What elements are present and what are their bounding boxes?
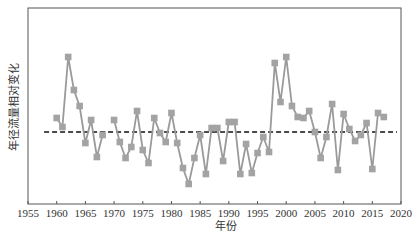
data-point-marker: [237, 171, 244, 178]
x-tick-label: 2005: [304, 207, 327, 219]
data-point-marker: [335, 167, 342, 174]
data-point-marker: [203, 171, 210, 178]
data-point-marker: [185, 181, 192, 188]
data-point-marker: [94, 154, 101, 161]
x-tick-label: 2010: [333, 207, 356, 219]
data-point-marker: [363, 120, 370, 127]
x-tick-label: 1960: [46, 207, 69, 219]
data-point-marker: [151, 115, 158, 122]
x-tick-label: 1990: [218, 207, 241, 219]
data-point-marker: [300, 115, 307, 122]
data-point-marker: [82, 140, 89, 147]
data-point-marker: [277, 99, 284, 106]
x-tick-label: 2020: [390, 207, 413, 219]
data-point-marker: [71, 87, 78, 94]
data-point-marker: [226, 119, 233, 126]
plot-frame: [28, 8, 401, 204]
data-point-marker: [88, 117, 95, 124]
data-point-marker: [117, 139, 124, 146]
x-tick-label: 2015: [361, 207, 384, 219]
data-point-marker: [243, 141, 250, 148]
data-point-marker: [323, 134, 330, 141]
data-point-marker: [157, 130, 164, 137]
data-point-marker: [231, 119, 238, 126]
x-tick-label: 2000: [275, 207, 298, 219]
x-tick-label: 1955: [17, 207, 40, 219]
data-point-marker: [208, 125, 215, 132]
x-tick-label: 1985: [189, 207, 212, 219]
data-point-marker: [168, 110, 175, 117]
data-point-marker: [99, 132, 106, 139]
data-point-marker: [59, 124, 66, 131]
data-point-marker: [53, 115, 60, 122]
data-point-marker: [375, 110, 382, 117]
data-point-marker: [180, 165, 187, 172]
data-point-marker: [312, 129, 319, 136]
data-point-marker: [145, 160, 152, 167]
x-axis-title: 年份: [215, 219, 237, 233]
data-point-marker: [329, 101, 336, 108]
data-point-marker: [317, 155, 324, 162]
data-point-marker: [254, 150, 261, 157]
y-axis-title: 年径流量相对变化: [7, 63, 21, 151]
data-point-marker: [340, 111, 347, 118]
data-point-marker: [271, 60, 278, 67]
data-point-marker: [220, 158, 227, 165]
x-tick-label: 1995: [247, 207, 270, 219]
x-tick-label: 1965: [74, 207, 97, 219]
data-point-marker: [306, 108, 313, 115]
data-point-marker: [191, 155, 198, 162]
data-point-marker: [369, 166, 376, 173]
runoff-chart: 1955196019651970197519801985199019952000…: [0, 0, 414, 242]
data-point-marker: [76, 103, 83, 110]
data-point-marker: [346, 126, 353, 133]
data-point-marker: [65, 54, 72, 61]
data-point-marker: [214, 125, 221, 132]
data-point-marker: [122, 155, 129, 162]
x-tick-label: 1975: [132, 207, 155, 219]
data-point-marker: [134, 108, 141, 115]
x-tick-label: 1980: [160, 207, 183, 219]
x-tick-label: 1970: [103, 207, 126, 219]
data-point-marker: [380, 114, 387, 121]
data-point-marker: [139, 147, 146, 154]
data-point-marker: [358, 132, 365, 139]
data-point-marker: [111, 117, 118, 124]
x-axis-tick-labels: 1955196019651970197519801985199019952000…: [17, 207, 413, 219]
data-point-marker: [128, 144, 135, 151]
data-point-marker: [266, 149, 273, 156]
data-point-marker: [352, 138, 359, 145]
data-point-marker: [283, 54, 290, 61]
data-point-marker: [289, 103, 296, 110]
data-point-marker: [294, 114, 301, 121]
data-point-marker: [260, 134, 267, 141]
data-point-marker: [162, 139, 169, 146]
data-point-marker: [174, 140, 181, 147]
data-point-marker: [249, 170, 256, 177]
series-markers: [53, 54, 387, 188]
data-point-marker: [197, 132, 204, 139]
